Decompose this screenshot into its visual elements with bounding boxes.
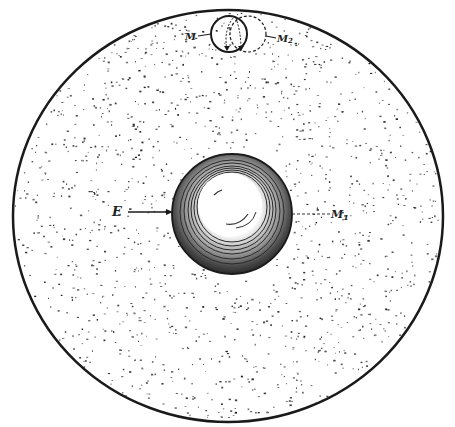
moon2-label: M2 [276,33,293,45]
moon1-label-group: M1 [292,208,349,222]
arrow-head-icon [224,46,230,51]
moon-pair: M M2 [184,16,293,52]
moon-label-left: M [184,31,197,42]
earth-label: E [111,204,123,219]
diagram-figure: E M1 M M2 [0,0,455,427]
moon-pointer-right [266,36,276,38]
moon-pointer-left [198,34,211,36]
moon1-label: M1 [330,208,349,222]
earth-label-group: E [111,204,173,219]
central-sphere [172,154,292,274]
